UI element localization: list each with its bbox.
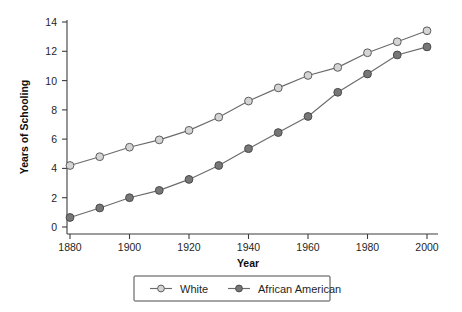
data-point (96, 153, 104, 161)
x-axis-title: Year (237, 257, 259, 269)
data-point (126, 143, 134, 151)
chart-legend[interactable]: White African American (134, 276, 341, 301)
legend-marker-african-american (236, 285, 243, 292)
data-point (185, 176, 193, 184)
line-chart-canvas: 0 2 4 6 8 10 12 14 1880 1900 1920 1940 1… (0, 0, 462, 312)
data-point (155, 136, 163, 144)
data-point (245, 97, 253, 105)
x-tick-label-1900: 1900 (118, 241, 142, 253)
data-point (274, 129, 282, 137)
data-point (364, 70, 372, 78)
y-tick-label-4: 4 (51, 162, 57, 174)
data-point (393, 38, 401, 46)
x-tick-label-2000: 2000 (415, 241, 439, 253)
series-line (70, 47, 427, 218)
data-point (334, 63, 342, 71)
data-point (274, 84, 282, 92)
data-point (215, 162, 223, 170)
x-tick-label-1920: 1920 (177, 241, 201, 253)
series-african-american (66, 43, 431, 221)
legend-label-white: White (180, 283, 208, 295)
data-point (126, 194, 134, 202)
y-tick-label-12: 12 (45, 45, 57, 57)
y-tick-label-10: 10 (45, 75, 57, 87)
data-point (423, 43, 431, 51)
series-layer (66, 27, 431, 221)
x-axis-ticks (70, 234, 427, 239)
data-point (66, 162, 74, 170)
data-point (215, 113, 223, 121)
x-tick-label-1980: 1980 (356, 241, 380, 253)
data-point (334, 88, 342, 96)
x-tick-label-1960: 1960 (296, 241, 320, 253)
y-tick-label-6: 6 (51, 133, 57, 145)
y-tick-label-14: 14 (45, 16, 57, 28)
y-tick-label-8: 8 (51, 104, 57, 116)
legend-label-african-american: African American (258, 283, 341, 295)
chart-figure: 0 2 4 6 8 10 12 14 1880 1900 1920 1940 1… (0, 0, 462, 312)
data-point (96, 204, 104, 212)
data-point (155, 186, 163, 194)
data-point (304, 72, 312, 80)
data-point (364, 49, 372, 57)
data-point (304, 113, 312, 121)
y-tick-label-2: 2 (51, 192, 57, 204)
y-axis-title: Years of Schooling (18, 80, 30, 175)
legend-marker-white (158, 285, 165, 292)
x-tick-label-1940: 1940 (237, 241, 261, 253)
data-point (423, 27, 431, 35)
x-tick-label-1880: 1880 (58, 241, 82, 253)
y-tick-label-0: 0 (51, 221, 57, 233)
data-point (185, 126, 193, 134)
data-point (66, 214, 74, 222)
data-point (393, 51, 401, 59)
data-point (245, 145, 253, 153)
y-axis-ticks (62, 22, 67, 227)
